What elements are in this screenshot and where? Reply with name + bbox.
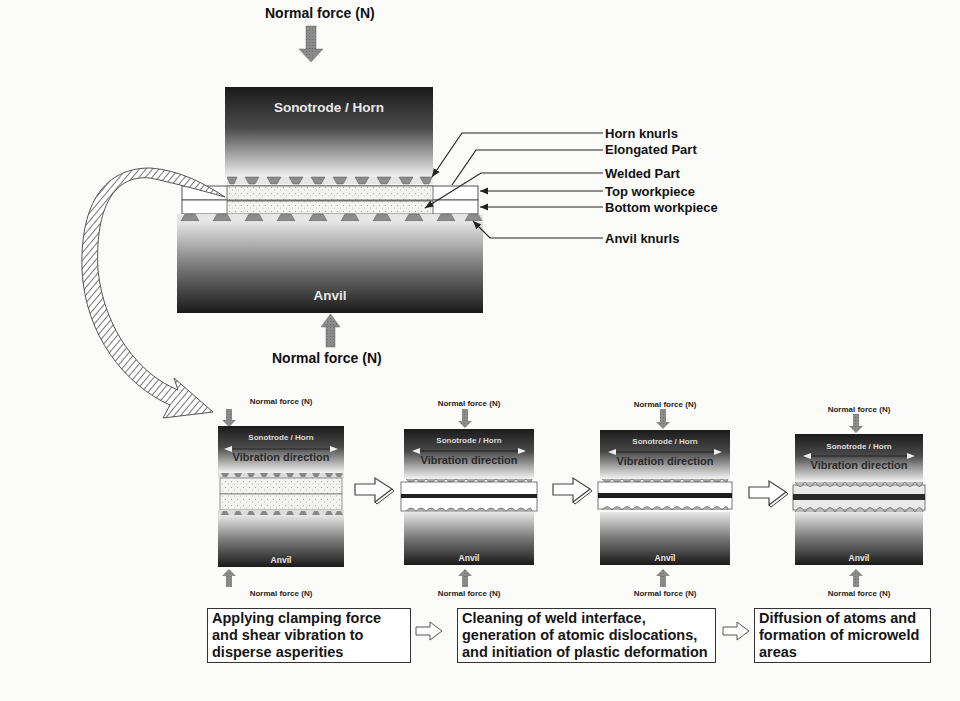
top-normal-force-label: Normal force (N) [265, 5, 375, 21]
stage1-horn-label: Sonotrode / Horn [218, 433, 344, 442]
stage2-vibration-label: Vibration direction [404, 454, 534, 466]
callout-top-workpiece: Top workpiece [605, 184, 695, 199]
transition-arrow-icon-1 [355, 478, 394, 504]
callout-welded-part: Welded Part [605, 166, 680, 181]
anvil-knurls [177, 214, 483, 221]
stage1-top-force-label: Normal force (N) [218, 397, 344, 406]
phase-arrow-icon-1 [416, 622, 442, 640]
stage2-horn-label: Sonotrode / Horn [404, 436, 534, 445]
up-force-arrow-icon [321, 314, 340, 347]
welded-part-bottom [227, 201, 433, 214]
stage3-anvil-label: Anvil [600, 553, 730, 563]
phase-box-2: Cleaning of weld interface, generation o… [457, 608, 716, 663]
stage2-top-force-label: Normal force (N) [404, 399, 534, 408]
stage4-vibration-label: Vibration direction [795, 459, 923, 471]
bottom-normal-force-label: Normal force (N) [272, 350, 382, 366]
down-force-arrow-icon [299, 26, 323, 62]
callout-anvil-knurls: Anvil knurls [605, 231, 679, 246]
stage4-horn-label: Sonotrode / Horn [795, 442, 923, 451]
stage2-bottom-force-label: Normal force (N) [404, 589, 534, 598]
stage4-top-force-label: Normal force (N) [795, 405, 923, 414]
stage3-top-force-label: Normal force (N) [600, 400, 730, 409]
stage1-bottom-force-label: Normal force (N) [218, 589, 344, 598]
callout-elongated-part: Elongated Part [605, 142, 697, 157]
welded-part-top [227, 186, 433, 200]
callout-bottom-workpiece: Bottom workpiece [605, 200, 718, 215]
stage3-horn-label: Sonotrode / Horn [600, 437, 730, 446]
phase-box-1: Applying clamping force and shear vibrat… [207, 608, 411, 663]
stage3-bottom-force-label: Normal force (N) [600, 589, 730, 598]
transition-arrow-icon-2 [553, 478, 592, 504]
phase-box-3: Diffusion of atoms and formation of micr… [754, 608, 931, 663]
transition-arrow-icon-3 [749, 481, 788, 507]
callout-horn-knurls: Horn knurls [605, 126, 678, 141]
horn-knurls [227, 177, 433, 184]
stage3-vibration-label: Vibration direction [600, 455, 730, 467]
stage1-anvil-label: Anvil [218, 555, 344, 565]
stage4-anvil-label: Anvil [795, 553, 923, 563]
stage1-vibration-label: Vibration direction [218, 451, 344, 463]
horn-label: Sonotrode / Horn [225, 100, 433, 115]
phase-arrow-icon-2 [723, 622, 749, 640]
stage4-bottom-force-label: Normal force (N) [795, 589, 923, 598]
anvil-label: Anvil [177, 288, 483, 303]
stage2-anvil-label: Anvil [404, 553, 534, 563]
